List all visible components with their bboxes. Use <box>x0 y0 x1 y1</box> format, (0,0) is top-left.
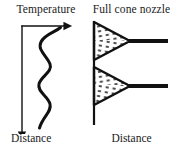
panel-full-cone-nozzle: Full cone nozzle <box>88 0 175 151</box>
figure-container: Temperature Distance Full cone nozzle <box>0 0 175 151</box>
temperature-wave-curve <box>39 28 61 129</box>
nozzle-upper-group <box>90 20 168 64</box>
full-cone-nozzle-graphic <box>88 16 175 134</box>
panel-temperature-profile: Temperature Distance <box>0 0 88 151</box>
panel-title-temperature: Temperature <box>2 2 90 16</box>
temperature-profile-graphic <box>0 16 88 134</box>
axis-label-distance-left: Distance <box>11 131 87 145</box>
nozzle-lower-group <box>90 65 168 109</box>
panel-title-full-cone-nozzle: Full cone nozzle <box>88 2 175 16</box>
axis-label-distance-right: Distance <box>88 131 175 145</box>
